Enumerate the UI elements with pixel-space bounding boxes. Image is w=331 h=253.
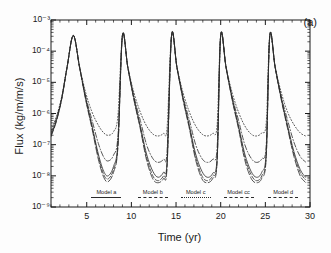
x-tick-label: 25 bbox=[252, 211, 278, 221]
x-tick-label: 20 bbox=[208, 211, 234, 221]
x-tick-label: 5 bbox=[74, 211, 100, 221]
x-tick-label: 15 bbox=[163, 211, 189, 221]
figure-panel: Flux (kg/m/m/s) Time (yr) (a) 10⁻³10⁻⁴10… bbox=[0, 0, 331, 253]
x-tick-label: 10 bbox=[118, 211, 144, 221]
x-tick-labels: 51015202530 bbox=[0, 0, 331, 253]
x-tick-label: 30 bbox=[297, 211, 323, 221]
